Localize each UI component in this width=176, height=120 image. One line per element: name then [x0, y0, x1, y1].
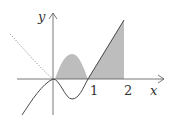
- y-axis-label: y: [37, 9, 46, 24]
- dotted-curve: [10, 34, 53, 79]
- tick-label-1: 1: [90, 83, 98, 98]
- diagram: y x 1 2: [0, 0, 176, 120]
- shaded-hump-region: [55, 54, 88, 79]
- tick-label-2: 2: [124, 83, 132, 98]
- x-axis-label: x: [150, 83, 158, 98]
